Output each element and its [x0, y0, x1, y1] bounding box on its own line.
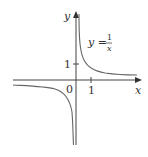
- y-axis-label: y: [63, 10, 71, 23]
- curve-negative-branch: [13, 85, 74, 145]
- function-label-numerator: 1: [107, 33, 112, 42]
- x-tick-label-1: 1: [88, 84, 95, 97]
- function-label-denominator: x: [107, 44, 112, 53]
- y-axis-arrow-icon: [73, 11, 79, 18]
- origin-label: 0: [66, 83, 73, 96]
- function-label-lhs: y =: [87, 36, 107, 49]
- x-axis-arrow-icon: [135, 77, 142, 83]
- y-tick-label-1: 1: [64, 58, 71, 71]
- hyperbola-graph: y x 0 1 1 y = 1 x: [0, 0, 148, 157]
- x-axis-label: x: [135, 84, 142, 97]
